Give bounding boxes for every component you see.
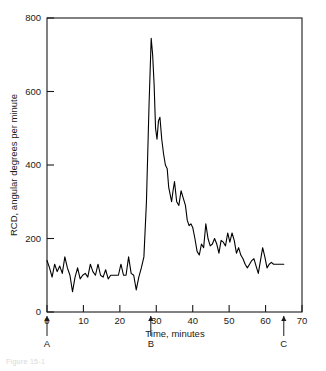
x-tick-label: 50 bbox=[224, 315, 235, 326]
x-tick-label: 20 bbox=[115, 315, 126, 326]
rcd-time-line-chart: 0200400600800 010203040506070 ABC Time, … bbox=[0, 0, 326, 371]
y-tick-label: 800 bbox=[25, 12, 41, 23]
x-axis-ticks bbox=[47, 305, 302, 312]
x-tick-label: 10 bbox=[78, 315, 89, 326]
plot-frame bbox=[47, 18, 302, 312]
y-axis-ticks bbox=[47, 18, 54, 312]
y-axis-label: RCD, angular degrees per minute bbox=[8, 94, 19, 236]
y-tick-label: 400 bbox=[25, 159, 41, 170]
y-tick-label: 200 bbox=[25, 233, 41, 244]
x-tick-label: 70 bbox=[297, 315, 308, 326]
x-tick-label: 40 bbox=[187, 315, 198, 326]
y-tick-label: 0 bbox=[36, 306, 41, 317]
y-tick-label: 600 bbox=[25, 86, 41, 97]
arrow-up-icon-C bbox=[281, 316, 286, 321]
y-axis-tick-labels: 0200400600800 bbox=[25, 12, 41, 317]
figure-caption: Figure 15-1 bbox=[6, 358, 45, 365]
x-axis-tick-labels: 010203040506070 bbox=[44, 315, 307, 326]
marker-label-C: C bbox=[280, 338, 287, 349]
x-axis-label: Time, minutes bbox=[145, 328, 205, 339]
figure-container: 0200400600800 010203040506070 ABC Time, … bbox=[0, 0, 326, 371]
x-tick-label: 60 bbox=[260, 315, 271, 326]
data-series-line bbox=[47, 38, 284, 292]
marker-label-A: A bbox=[44, 338, 51, 349]
marker-label-B: B bbox=[148, 338, 154, 349]
